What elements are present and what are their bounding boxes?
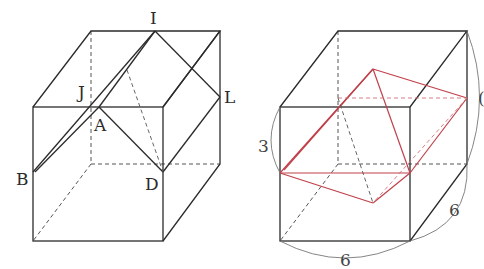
right-cube: 3 6 6 ( [258,31,484,269]
dim-arc-3 [271,107,280,173]
section-edge [373,69,410,173]
right-face-edges [163,31,220,241]
cut-line-I-A [99,31,155,107]
section-hidden-edge [373,98,467,203]
cross-section [280,69,467,203]
dim-label-width: 6 [340,250,351,269]
diagram-canvas: I J L A B D [0,0,484,269]
left-cube: I J L A B D [16,8,235,241]
hidden-edge [33,164,91,241]
label-J: J [76,82,85,102]
label-I: I [150,8,157,28]
cut-line-A-D [99,107,163,172]
label-A: A [93,115,107,135]
dim-label-partial: ( [478,88,484,108]
cut-line-L-D [163,97,220,172]
cut-line-diag [163,31,220,107]
dim-label-depth: 6 [449,200,460,220]
cut-line-A-B [35,107,99,172]
hidden-cut-line [127,70,163,172]
hidden-cut-line [338,98,373,203]
section-edge [280,173,373,203]
front-face [280,107,410,241]
label-L: L [224,87,235,107]
label-D: D [145,174,159,194]
dim-label-3: 3 [258,136,269,156]
label-B: B [16,169,29,189]
cut-line-I-L [155,31,220,97]
section-edge [373,173,410,203]
section-edge [410,98,467,173]
cut-line-I-B [33,31,155,172]
